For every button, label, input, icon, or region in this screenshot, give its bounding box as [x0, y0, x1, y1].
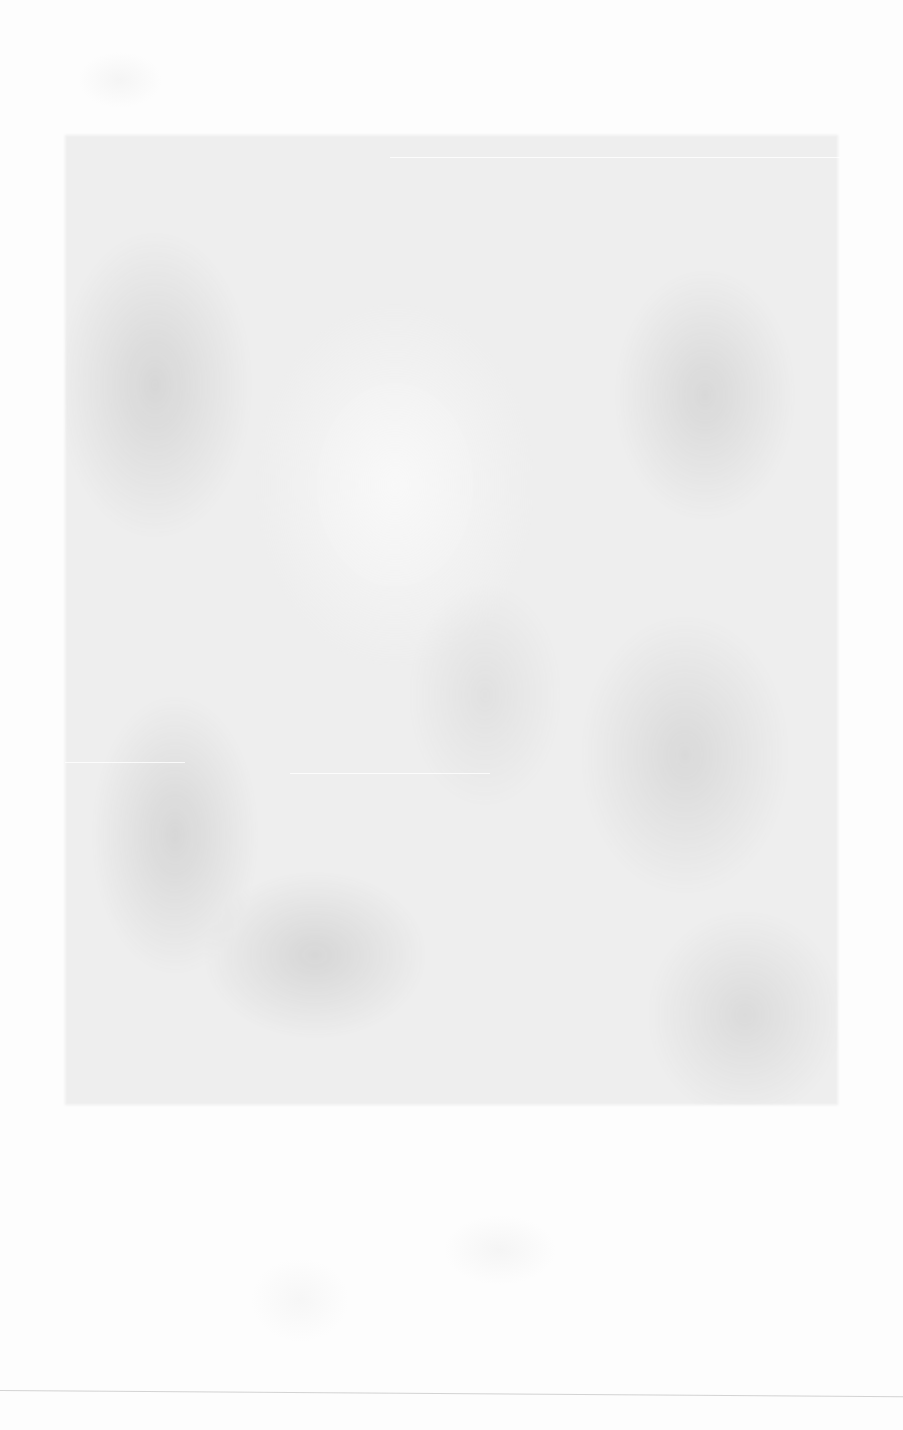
scanned-page [0, 0, 903, 1430]
scan-artifact-line [390, 157, 840, 158]
page-edge-line [0, 1390, 903, 1397]
scan-artifact-line [290, 773, 490, 774]
scan-artifact-line [65, 762, 185, 763]
mottled-gray-region [65, 135, 838, 1105]
